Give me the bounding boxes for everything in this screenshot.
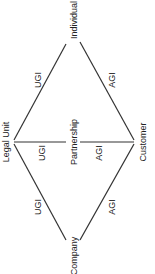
edge-label-legal-unit-company: UGI <box>33 199 43 215</box>
edge-label-company-customer: AGI <box>107 199 117 215</box>
edge-label-individual-customer: AGI <box>107 72 117 88</box>
edge-label-partnership-customer: AGI <box>94 145 104 161</box>
edge-company-customer <box>80 144 134 240</box>
edge-label-legal-unit-partnership: UGI <box>37 145 47 161</box>
edge-label-legal-unit-individual: UGI <box>33 72 43 88</box>
node-customer: Customer <box>138 122 148 161</box>
edge-legal-unit-individual <box>14 44 66 140</box>
node-partnership: Partnership <box>69 119 79 165</box>
entity-diagram: Legal Unit Individual Partnership Compan… <box>0 0 155 274</box>
node-legal-unit: Legal Unit <box>1 121 11 162</box>
edge-individual-customer <box>80 42 134 140</box>
node-company: Company <box>69 236 79 274</box>
node-individual: Individual <box>69 1 79 39</box>
